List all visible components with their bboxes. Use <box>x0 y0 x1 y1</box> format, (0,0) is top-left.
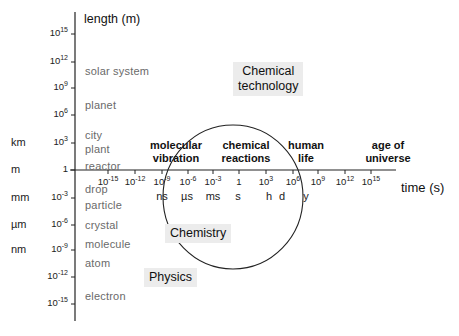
y-tick-label: 10-15 <box>47 297 68 308</box>
field-chemistry: Chemistry <box>165 224 231 243</box>
time-unit-label: d <box>272 190 292 202</box>
field-chemical-technology-line2: technology <box>238 79 298 94</box>
x-tick-label: 10-3 <box>201 176 225 187</box>
y-tick-label: 10-3 <box>51 191 68 202</box>
length-object-label: plant <box>85 143 110 155</box>
time-unit-label: y <box>296 190 316 202</box>
field-chemical-technology-line1: Chemical <box>238 64 298 79</box>
x-tick-label: 109 <box>306 176 330 187</box>
axes-and-circle <box>0 0 459 336</box>
length-object-label: city <box>85 129 102 141</box>
y-tick-label: 109 <box>54 81 68 92</box>
y-tick-label: 103 <box>54 136 68 147</box>
y-tick-label: 10-9 <box>51 243 68 254</box>
y-tick-label: 1012 <box>50 55 68 66</box>
x-tick-label: 10-9 <box>150 176 174 187</box>
x-tick-label: 1015 <box>359 176 383 187</box>
time-unit-label: ms <box>203 190 223 202</box>
x-tick-label: 1 <box>227 176 251 187</box>
length-object-label: reactor <box>85 160 121 172</box>
y-tick-label: 1015 <box>50 27 68 38</box>
y-tick-label: 106 <box>54 108 68 119</box>
time-event-label: age ofuniverse <box>348 139 428 165</box>
y-tick-label: 10-12 <box>47 270 68 281</box>
y-unit-label: nm <box>11 243 26 255</box>
length-object-label: atom <box>85 257 110 269</box>
time-event-label: molecularvibration <box>136 139 216 165</box>
y-tick-label: 1 <box>63 163 68 174</box>
length-object-label: electron <box>85 290 126 302</box>
y-unit-label: m <box>11 163 20 175</box>
time-unit-label: µs <box>177 190 197 202</box>
length-object-label: molecule <box>85 238 131 250</box>
y-unit-label: km <box>11 136 26 148</box>
y-unit-label: µm <box>11 218 27 230</box>
x-tick-label: 1012 <box>333 176 357 187</box>
length-object-label: planet <box>85 99 116 111</box>
time-unit-label: s <box>228 190 248 202</box>
time-event-label: humanlife <box>266 139 346 165</box>
x-tick-label: 103 <box>254 176 278 187</box>
field-physics: Physics <box>144 268 197 287</box>
length-object-label: crystal <box>85 219 118 231</box>
x-tick-label: 106 <box>281 176 305 187</box>
length-object-label: particle <box>85 199 122 211</box>
x-tick-label: 10-6 <box>176 176 200 187</box>
y-axis-title: length (m) <box>84 12 140 26</box>
y-tick-label: 10-6 <box>51 218 68 229</box>
x-tick-label: 10-12 <box>123 176 147 187</box>
x-tick-label: 10-15 <box>96 176 120 187</box>
time-unit-label: ns <box>152 190 172 202</box>
field-chemical-technology: Chemical technology <box>233 62 303 96</box>
length-object-label: solar system <box>85 65 149 77</box>
x-axis-title: time (s) <box>401 180 444 195</box>
y-unit-label: mm <box>11 191 29 203</box>
